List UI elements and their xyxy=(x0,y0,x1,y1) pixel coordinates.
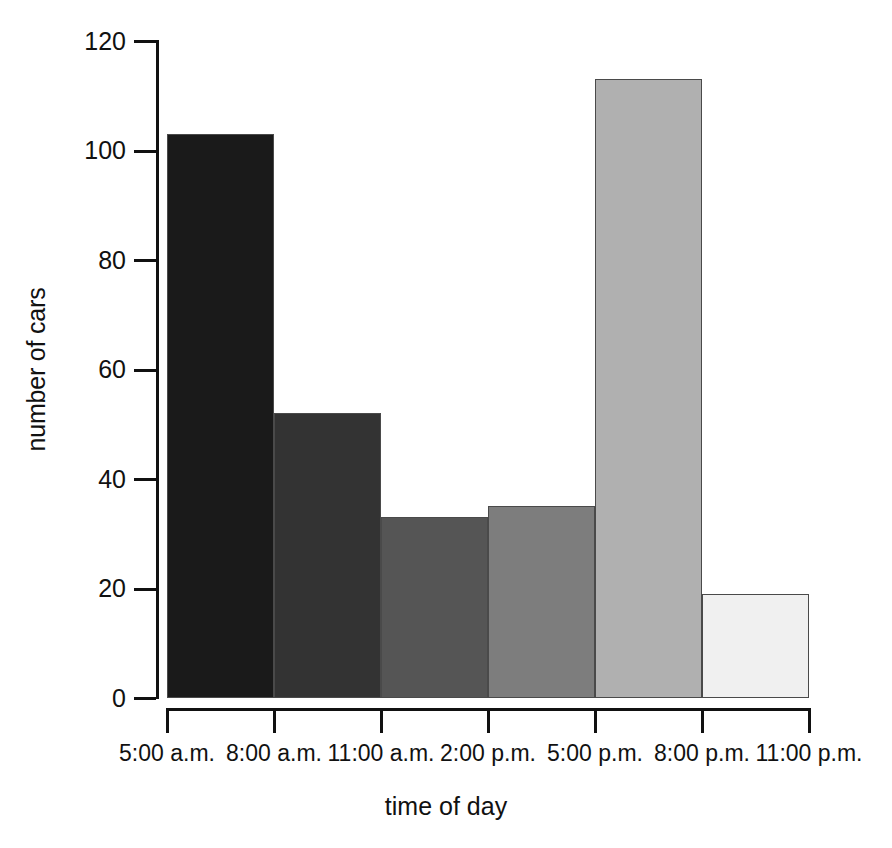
x-tick-mark xyxy=(594,708,597,733)
x-tick-mark xyxy=(166,708,169,733)
y-tick-mark xyxy=(134,369,156,372)
bar-1100am xyxy=(381,517,488,698)
bar-800am xyxy=(274,413,381,698)
y-tick-mark xyxy=(134,259,156,262)
y-tick-mark xyxy=(134,588,156,591)
x-tick-mark xyxy=(808,708,811,733)
y-tick-label: 0 xyxy=(40,685,126,711)
bar-500am xyxy=(167,134,274,698)
x-tick-label: 5:00 a.m. xyxy=(119,742,215,765)
x-tick-label: 8:00 a.m. xyxy=(226,742,322,765)
y-tick-label-text: 60 xyxy=(40,357,126,382)
x-tick-mark xyxy=(487,708,490,733)
x-tick-mark xyxy=(380,708,383,733)
y-tick-label: 80 xyxy=(40,247,126,273)
bar-500pm xyxy=(595,79,702,698)
y-tick-mark xyxy=(134,697,156,700)
bar-200pm xyxy=(488,506,595,698)
y-tick-label-text: 40 xyxy=(40,467,126,492)
y-tick-mark xyxy=(134,478,156,481)
x-tick-label: 5:00 p.m. xyxy=(547,742,643,765)
x-axis-title: time of day xyxy=(0,792,892,821)
plot-area xyxy=(167,41,809,698)
x-tick-mark xyxy=(273,708,276,733)
y-tick-label-text: 80 xyxy=(40,248,126,273)
x-tick-label: 8:00 p.m. xyxy=(654,742,750,765)
x-tick-label: 11:00 p.m. xyxy=(756,742,863,765)
y-tick-label: 20 xyxy=(40,576,126,602)
x-tick-mark xyxy=(701,708,704,733)
y-tick-label: 40 xyxy=(40,466,126,492)
y-tick-label: 100 xyxy=(40,138,126,164)
y-tick-label-text: 100 xyxy=(40,138,126,163)
y-tick-label-text: 20 xyxy=(40,576,126,601)
y-axis-line xyxy=(156,40,159,699)
y-tick-label-text: 0 xyxy=(40,686,126,711)
x-tick-label: 2:00 p.m. xyxy=(440,742,536,765)
histogram-chart: number of cars 020406080100120 5:00 a.m.… xyxy=(0,0,892,848)
y-tick-label: 60 xyxy=(40,357,126,383)
x-tick-label: 11:00 a.m. xyxy=(328,742,435,765)
y-tick-mark xyxy=(134,40,156,43)
y-tick-mark xyxy=(134,150,156,153)
y-tick-label-text: 120 xyxy=(40,29,126,54)
bar-800pm xyxy=(702,594,809,698)
y-tick-label: 120 xyxy=(40,28,126,54)
